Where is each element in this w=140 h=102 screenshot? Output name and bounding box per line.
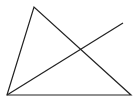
cevian-line [7,23,123,95]
triangle [7,7,131,95]
geometry-diagram [0,0,140,102]
